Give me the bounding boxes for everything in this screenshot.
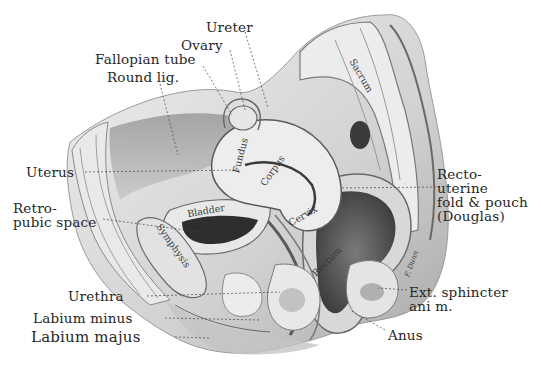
label-retropubic-space: Retro- pubic space <box>13 201 97 229</box>
label-labium-minus: Labium minus <box>33 311 133 325</box>
label-uterus: Uterus <box>26 165 74 179</box>
ovary <box>229 106 257 130</box>
label-ext-sphincter: Ext. sphincter ani m. <box>409 285 508 313</box>
label-anus: Anus <box>388 328 423 342</box>
label-labium-majus: Labium majus <box>31 329 141 345</box>
label-round-ligament: Round lig. <box>107 70 179 84</box>
label-ovary: Ovary <box>181 38 223 52</box>
label-rectouterine-pouch: Recto- uterine fold & pouch (Douglas) <box>437 167 528 223</box>
label-urethra: Urethra <box>68 289 124 303</box>
label-ureter: Ureter <box>206 20 253 34</box>
label-fallopian-tube: Fallopian tube <box>95 52 196 66</box>
